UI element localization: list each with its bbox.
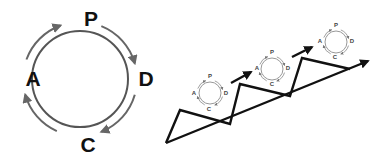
mini-label-check: C — [270, 81, 275, 87]
mini-label-plan: P — [208, 73, 212, 79]
mini-label-plan: P — [334, 22, 338, 28]
mini-label-act: A — [192, 90, 197, 96]
pdca-diagram: P D C A P D C A P D C A P — [0, 0, 390, 158]
mini-label-act: A — [255, 65, 260, 71]
step-arrow-2 — [292, 47, 312, 57]
arrow-act-to-plan — [26, 25, 60, 59]
arrow-do-to-check — [101, 95, 134, 132]
mini-cycle-1: P D C A — [192, 73, 229, 112]
arrow-check-to-act — [25, 95, 57, 131]
mini-label-check: C — [207, 106, 212, 112]
mini-label-do: D — [350, 38, 355, 44]
mini-label-do: D — [224, 90, 229, 96]
mini-cycle-ring — [325, 31, 347, 53]
cycle-ring — [32, 31, 128, 127]
arrow-plan-to-do — [101, 26, 134, 63]
mini-label-act: A — [318, 38, 323, 44]
mini-label-check: C — [333, 54, 338, 60]
mini-cycle-ring — [199, 82, 221, 104]
mini-label-do: D — [286, 65, 291, 71]
stage-label-do: D — [138, 67, 153, 90]
mini-label-plan: P — [270, 49, 274, 55]
stage-label-plan: P — [84, 7, 98, 30]
cycle-arrows — [25, 25, 135, 131]
mini-cycle-3: P D C A — [318, 22, 355, 60]
pdca-diagram-svg: P D C A P D C A P D C A P — [0, 0, 390, 158]
mini-cycle-ring — [261, 58, 283, 80]
main-cycle: P D C A — [25, 7, 153, 156]
mini-cycle-2: P D C A — [255, 49, 291, 87]
stage-label-act: A — [25, 67, 40, 90]
stage-label-check: C — [80, 133, 95, 156]
step-arrow-1 — [231, 72, 251, 83]
